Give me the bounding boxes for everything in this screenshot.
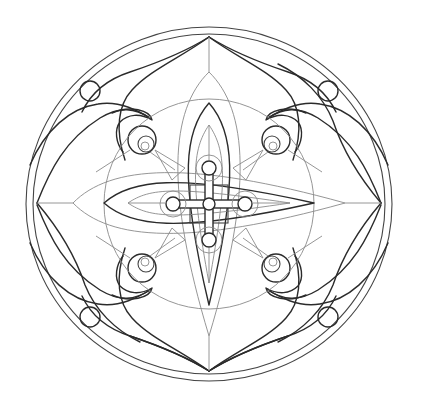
mandala-canvas: [0, 0, 430, 398]
